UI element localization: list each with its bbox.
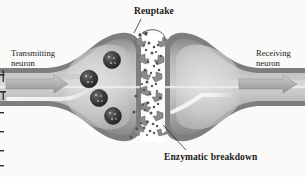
label-reuptake: Reuptake (134, 6, 174, 17)
vesicle (105, 108, 122, 125)
vesicle (103, 51, 120, 68)
label-receiving-neuron: Receiving neuron (256, 49, 291, 68)
label-receiving-neuron-line2: neuron (256, 59, 291, 69)
axon-band-left-2 (0, 74, 80, 79)
label-transmitting-neuron-line2: neuron (11, 59, 55, 69)
label-enzymatic-breakdown: Enzymatic breakdown (164, 152, 257, 163)
vesicle (80, 70, 98, 88)
label-transmitting-neuron: Transmitting neuron (11, 49, 55, 68)
vesicle (90, 89, 107, 106)
synapse-diagram (0, 0, 305, 177)
synapse-illustration (0, 0, 305, 177)
